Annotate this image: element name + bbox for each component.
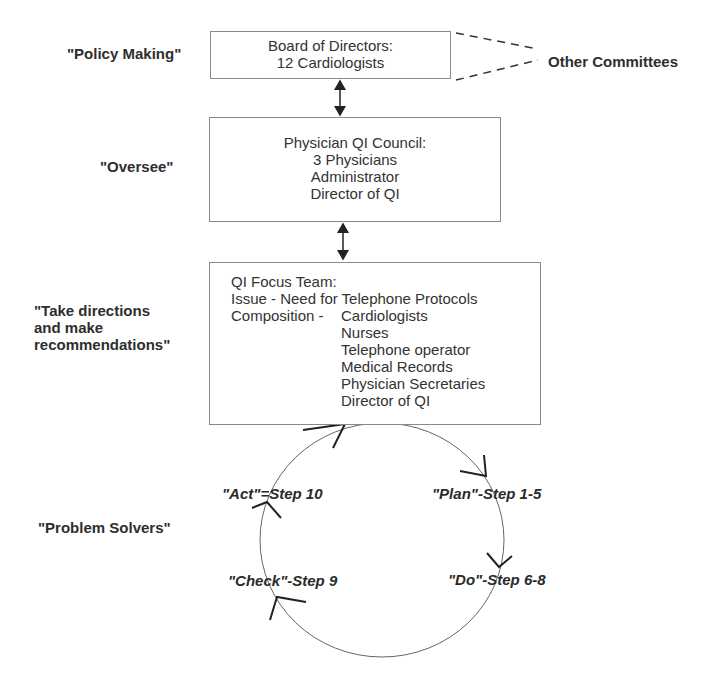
cycle-arrowhead-do xyxy=(487,553,512,567)
board-members: 12 Cardiologists xyxy=(211,54,450,71)
dashed-link-bottom xyxy=(456,60,538,80)
dashed-link-top xyxy=(456,33,538,49)
pdca-do-label: "Do"-Step 6-8 xyxy=(448,571,546,588)
composition-item: Medical Records xyxy=(341,358,485,375)
pdca-act-label: "Act"=Step 10 xyxy=(222,485,323,502)
composition-item: Director of QI xyxy=(341,392,485,409)
council-member: 3 Physicians xyxy=(210,151,500,168)
role-label-take-directions: "Take directions and make recommendation… xyxy=(34,302,170,353)
cycle-arrowhead-top xyxy=(303,424,345,448)
council-member: Director of QI xyxy=(210,185,500,202)
composition-item: Physician Secretaries xyxy=(341,375,485,392)
role-label-policy-making: "Policy Making" xyxy=(67,45,181,62)
focus-team-issue: Issue - Need for Telephone Protocols xyxy=(231,290,540,307)
board-of-directors-box: Board of Directors: 12 Cardiologists xyxy=(210,31,451,79)
composition-item: Nurses xyxy=(341,324,485,341)
composition-list: Cardiologists Nurses Telephone operator … xyxy=(341,307,485,409)
council-member: Administrator xyxy=(210,168,500,185)
composition-label: Composition - xyxy=(231,307,341,409)
composition-item: Cardiologists xyxy=(341,307,485,324)
composition-item: Telephone operator xyxy=(341,341,485,358)
physician-qi-council-box: Physician QI Council: 3 Physicians Admin… xyxy=(209,117,501,222)
other-committees-label: Other Committees xyxy=(548,53,678,70)
role-label-oversee: "Oversee" xyxy=(100,158,173,175)
pdca-plan-label: "Plan"-Step 1-5 xyxy=(432,485,541,502)
pdca-check-label: "Check"-Step 9 xyxy=(228,572,337,589)
pdca-cycle-circle xyxy=(260,423,504,657)
council-title: Physician QI Council: xyxy=(210,134,500,151)
cycle-arrowhead-check xyxy=(270,597,306,620)
role-label-problem-solvers: "Problem Solvers" xyxy=(38,519,171,536)
cycle-arrowhead-act xyxy=(252,502,281,518)
focus-team-title: QI Focus Team: xyxy=(231,273,540,290)
qi-focus-team-box: QI Focus Team: Issue - Need for Telephon… xyxy=(209,262,541,425)
board-title: Board of Directors: xyxy=(211,37,450,54)
